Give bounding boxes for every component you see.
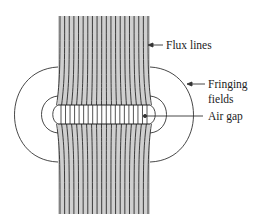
fringing-fields-right <box>150 67 194 162</box>
air-gap-label: Air gap <box>208 109 243 123</box>
lower-core <box>58 124 150 214</box>
flux-line <box>97 16 98 105</box>
air-gap-dot <box>143 114 146 117</box>
flux-line <box>111 124 112 214</box>
fringing-fields-left <box>15 67 59 162</box>
air-gap-region <box>58 105 150 124</box>
fringing-fields-label-line1: Fringing <box>208 77 248 91</box>
flux-line <box>111 16 112 105</box>
fringing-arrowhead <box>187 82 192 86</box>
flux-lines-label: Flux lines <box>166 38 212 52</box>
fringing-fields-label-line2: fields <box>208 92 234 106</box>
upper-core <box>58 16 150 105</box>
flux-line <box>97 124 98 214</box>
